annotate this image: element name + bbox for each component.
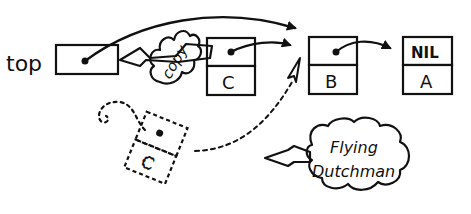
dutchman-line1: Flying <box>330 138 378 157</box>
node-a: NIL A <box>403 37 452 94</box>
flying-dutchman-cloud: Flying Dutchman <box>307 118 409 190</box>
node-a-nil: NIL <box>411 44 439 62</box>
top-label: top <box>6 51 42 76</box>
linked-list-diagram: top C copy B NIL A <box>0 0 471 214</box>
node-a-value: A <box>420 71 433 92</box>
ghost-node-value: C <box>138 151 157 174</box>
ghost-tail <box>99 102 145 130</box>
ghost-arrowhead <box>288 58 300 82</box>
node-b-value: B <box>325 71 337 92</box>
node-c-ghost: C <box>124 112 187 184</box>
node-c-value: C <box>222 72 235 93</box>
dutchman-line2: Dutchman <box>312 162 395 181</box>
node-b: B <box>309 37 357 94</box>
dutchman-arrow <box>265 146 310 166</box>
